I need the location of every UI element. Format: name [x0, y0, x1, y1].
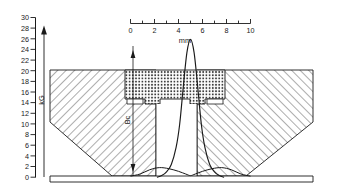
field-range-arrowhead [41, 26, 47, 35]
y-tick-label: 6 [25, 141, 29, 150]
bc-dimension-label: Bc [123, 115, 132, 124]
base-plate [50, 176, 313, 182]
x-tick-label: 2 [153, 26, 157, 35]
x-tick-label: 10 [247, 26, 255, 35]
pole-step-notch-right [207, 99, 223, 104]
bore-gap [156, 104, 197, 176]
y-tick-label: 30 [21, 13, 29, 22]
field-strength-axis: 30 28 26 24 22 20 18 16 14 12 10 8 6 4 2… [21, 13, 47, 182]
y-tick-label: 14 [21, 98, 29, 107]
x-tick-label: 8 [225, 26, 229, 35]
y-tick-label: 12 [21, 109, 29, 118]
technical-drawing: 30 28 26 24 22 20 18 16 14 12 10 8 6 4 2… [0, 0, 338, 190]
y-tick-label: 28 [21, 24, 29, 33]
x-tick-label: 4 [177, 26, 181, 35]
x-tick-label: 6 [201, 26, 205, 35]
y-tick-label: 10 [21, 120, 29, 129]
y-tick-label: 26 [21, 35, 29, 44]
lens-assembly-outline [50, 70, 313, 182]
y-tick-label: 16 [21, 88, 29, 97]
y-tick-label: 22 [21, 56, 29, 65]
y-tick-label: 2 [25, 162, 29, 171]
y-tick-label: 18 [21, 77, 29, 86]
y-tick-label: 20 [21, 67, 29, 76]
center-pole-piece [125, 70, 225, 104]
figure-canvas: 30 28 26 24 22 20 18 16 14 12 10 8 6 4 2… [0, 0, 338, 190]
y-tick-label: 0 [25, 173, 29, 182]
y-tick-label: 8 [25, 130, 29, 139]
bc-arrowhead-top [131, 50, 136, 58]
y-tick-label: 4 [25, 152, 29, 161]
y-tick-label: 24 [21, 45, 29, 54]
pole-step-notch-left [127, 99, 143, 104]
y-axis-unit-label: kG [37, 95, 46, 105]
x-tick-label: 0 [129, 26, 133, 35]
